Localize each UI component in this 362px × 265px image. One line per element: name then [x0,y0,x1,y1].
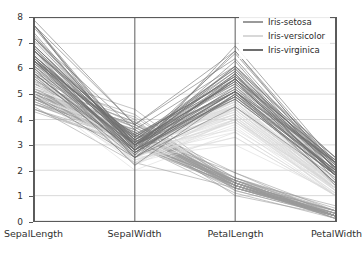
y-tick-label: 1 [0,191,23,201]
legend-label-versicolor: Iris-versicolor [268,30,325,42]
legend-swatch-virginica [243,49,263,51]
y-tick-mark [29,196,33,197]
y-tick-mark [29,171,33,172]
y-tick-mark [29,43,33,44]
y-tick-mark [29,94,33,95]
y-tick-mark [29,222,33,223]
x-axis-label-sepallength: SepalLength [4,228,63,239]
y-tick-mark [29,145,33,146]
legend-item-setosa[interactable]: Iris-setosa [243,16,325,28]
legend-label-setosa: Iris-setosa [268,16,312,28]
y-tick-label: 3 [0,140,23,150]
y-tick-label: 7 [0,38,23,48]
x-axis-label-petalwidth: PetalWidth [311,228,362,239]
x-axis-label-petallength: PetalLength [207,228,263,239]
y-tick-label: 6 [0,63,23,73]
legend-item-virginica[interactable]: Iris-virginica [243,44,325,56]
parallel-coordinates-figure: 012345678 SepalLengthSepalWidthPetalLeng… [0,0,362,265]
legend: Iris-setosa Iris-versicolor Iris-virgini… [239,13,330,59]
y-tick-label: 8 [0,12,23,22]
x-axis-label-sepalwidth: SepalWidth [108,228,162,239]
legend-label-virginica: Iris-virginica [268,44,320,56]
legend-swatch-versicolor [243,35,263,37]
legend-item-versicolor[interactable]: Iris-versicolor [243,30,325,42]
legend-swatch-setosa [243,21,263,23]
y-tick-label: 2 [0,166,23,176]
y-tick-label: 4 [0,115,23,125]
y-tick-mark [29,68,33,69]
y-tick-label: 0 [0,217,23,227]
y-tick-mark [29,17,33,18]
y-tick-label: 5 [0,89,23,99]
y-tick-mark [29,120,33,121]
